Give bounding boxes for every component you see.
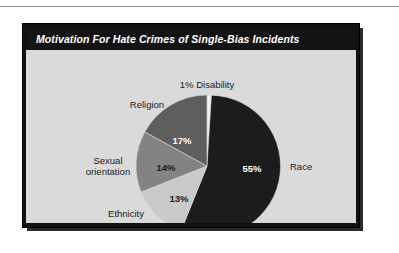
chart-title-bar: Motivation For Hate Crimes of Single-Bia… — [26, 27, 356, 50]
page-title: Motivation For Hate Crimes of Single-Bia… — [36, 33, 300, 45]
pie-label-religion: Religion — [130, 99, 164, 110]
pie-value-religion: 17% — [172, 135, 192, 146]
pie-value-race: 55% — [242, 163, 262, 174]
pie-label-sexual-orientation-line2: orientation — [86, 166, 130, 177]
pie-chart-svg: 55% 17% 14% 13% 1% Disability Religion S… — [26, 50, 356, 223]
chart-panel: Motivation For Hate Crimes of Single-Bia… — [22, 23, 360, 228]
pie-label-race: Race — [290, 161, 312, 172]
page-top-rule — [0, 6, 399, 7]
pie-label-ethnicity: Ethnicity — [108, 208, 144, 219]
pie-label-disability: 1% Disability — [180, 79, 235, 90]
chart-plot-area: 55% 17% 14% 13% 1% Disability Religion S… — [26, 50, 356, 223]
pie-chart: 55% 17% 14% 13% 1% Disability Religion S… — [26, 50, 356, 223]
pie-value-sexual-orientation: 14% — [156, 162, 176, 173]
pie-label-sexual-orientation-line1: Sexual — [93, 155, 122, 166]
pie-value-ethnicity: 13% — [169, 193, 189, 204]
